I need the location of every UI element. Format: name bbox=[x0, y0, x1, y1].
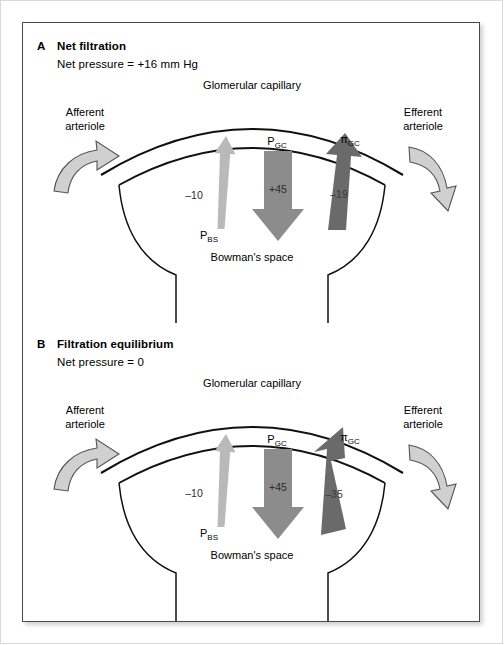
panel-a-diagram: Glomerular capillary Bowman's space Affe… bbox=[23, 23, 481, 323]
efferent-arteriole-flow-arrow bbox=[409, 445, 456, 509]
force-arrow-bowman-space-hydrostatic-pressure bbox=[215, 434, 236, 527]
afferent-arteriole-label-line1: Afferent bbox=[66, 404, 104, 416]
glomerular-capillary-label: Glomerular capillary bbox=[203, 79, 301, 91]
force-arrow-glomerular-capillary-hydrostatic-pressure bbox=[252, 449, 304, 539]
panel-b-diagram: Glomerular capillary Bowman's space Affe… bbox=[23, 321, 481, 621]
glomerular-capillary-arc bbox=[101, 427, 403, 473]
pbs-symbol: PBS bbox=[200, 527, 218, 542]
bowmans-capsule-left-wall bbox=[119, 483, 176, 621]
pbs-value: –10 bbox=[185, 189, 203, 201]
pigc-value: –19 bbox=[330, 188, 348, 200]
afferent-arteriole-label-line1: Afferent bbox=[66, 106, 104, 118]
force-arrow-glomerular-capillary-oncotic-pressure bbox=[314, 427, 346, 535]
afferent-arteriole-flow-arrow bbox=[54, 439, 119, 491]
bowmans-space-label: Bowman's space bbox=[211, 251, 294, 263]
figure-panel: A Net filtration Net pressure = +16 mm H… bbox=[22, 22, 480, 622]
force-arrow-bowman-space-hydrostatic-pressure bbox=[215, 136, 236, 229]
bowmans-space-label: Bowman's space bbox=[211, 549, 294, 561]
pgc-value: +45 bbox=[269, 481, 287, 493]
efferent-arteriole-flow-arrow bbox=[409, 147, 456, 211]
afferent-arteriole-label-line2: arteriole bbox=[65, 120, 105, 132]
efferent-arteriole-label-line2: arteriole bbox=[403, 120, 443, 132]
bowmans-capsule-inner-arc bbox=[119, 446, 385, 483]
glomerular-capillary-label: Glomerular capillary bbox=[203, 377, 301, 389]
pbs-symbol: PBS bbox=[200, 229, 218, 244]
efferent-arteriole-label-line1: Efferent bbox=[404, 106, 442, 118]
efferent-arteriole-label-line2: arteriole bbox=[403, 418, 443, 430]
force-arrow-glomerular-capillary-hydrostatic-pressure bbox=[252, 151, 304, 241]
afferent-arteriole-flow-arrow bbox=[54, 141, 119, 193]
pigc-value: –35 bbox=[325, 488, 343, 500]
afferent-arteriole-label-line2: arteriole bbox=[65, 418, 105, 430]
pbs-value: –10 bbox=[185, 487, 203, 499]
bowmans-capsule-left-wall bbox=[119, 185, 176, 323]
panel-filtration-equilibrium: B Filtration equilibrium Net pressure = … bbox=[23, 321, 481, 621]
pgc-value: +45 bbox=[269, 183, 287, 195]
efferent-arteriole-label-line1: Efferent bbox=[404, 404, 442, 416]
panel-net-filtration: A Net filtration Net pressure = +16 mm H… bbox=[23, 23, 481, 323]
